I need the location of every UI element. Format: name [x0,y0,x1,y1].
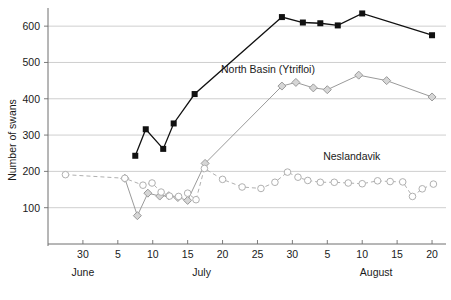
y-tick-labels-group: 100200300400500600 [22,20,40,214]
data-point [359,180,366,187]
data-point [144,189,152,197]
x-tick-label: 10 [147,248,159,260]
data-point [272,179,279,186]
data-point [317,179,324,186]
data-point [355,71,363,79]
data-point [279,14,285,20]
data-point [62,171,69,178]
swan-count-chart: 100200300400500600 30510152025305101520 … [0,0,451,300]
data-point [175,193,182,200]
data-point [192,91,198,97]
data-point [374,178,381,185]
data-point [429,32,435,38]
data-point [428,93,436,101]
x-tick-label: 15 [182,248,194,260]
y-tick-label: 600 [22,20,40,32]
y-tick-label: 200 [22,165,40,177]
x-tick-labels-group: 30510152025305101520 [77,248,438,260]
y-tick-label: 100 [22,202,40,214]
x-tick-label: 5 [115,248,121,260]
data-point [430,181,437,188]
data-point [149,180,156,187]
x-tick-label: 30 [287,248,299,260]
data-point [258,185,265,192]
data-point [399,179,406,186]
month-label: August [360,266,393,278]
data-point [184,196,192,204]
x-tick-label: 10 [356,248,368,260]
data-point [160,146,166,152]
data-point [132,153,138,159]
x-tick-label: 30 [77,248,89,260]
data-point [300,20,306,26]
data-point [171,120,177,126]
data-point [323,86,331,94]
series-neslandavik [62,165,437,203]
data-point [201,165,208,172]
data-point [143,126,149,132]
data-point [409,193,416,200]
data-point [419,186,426,193]
data-point [383,77,391,85]
chart-canvas: 100200300400500600 30510152025305101520 … [0,0,451,300]
data-point [304,177,311,184]
y-tick-label: 400 [22,93,40,105]
x-tick-label: 25 [252,248,264,260]
data-series-group [62,10,437,219]
data-point [295,174,302,181]
series-label: Neslandavik [323,150,381,162]
data-point [158,189,165,196]
month-label: July [192,266,211,278]
x-tick-label: 20 [426,248,438,260]
gridlines-group [48,26,446,208]
data-point [309,84,317,92]
data-point [184,190,191,197]
y-axis-title: Number of swans [6,99,18,181]
data-point [140,182,147,189]
month-label: June [72,266,95,278]
data-point [387,178,394,185]
axes-group [48,8,446,246]
x-tick-label: 15 [391,248,403,260]
data-point [284,169,291,176]
x-tick-label: 20 [217,248,229,260]
data-point [331,179,338,186]
data-point [317,20,323,26]
data-point [219,176,226,183]
data-point [239,184,246,191]
data-point [133,212,141,220]
month-labels-group: JuneJulyAugust [72,266,393,278]
y-tick-label: 500 [22,56,40,68]
x-tick-label: 5 [324,248,330,260]
series-label: North Basin (Ytrifloi) [221,63,315,75]
data-point [292,78,300,86]
data-point [345,180,352,187]
data-point [122,175,129,182]
data-point [335,22,341,28]
figure-caption [14,294,444,300]
data-point [193,196,200,203]
data-point [359,10,365,16]
y-tick-label: 300 [22,129,40,141]
data-point [166,193,173,200]
